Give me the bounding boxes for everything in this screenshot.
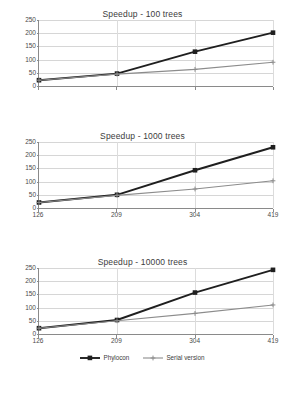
y-axis-tick-label: 50 bbox=[29, 70, 36, 77]
x-gridline bbox=[273, 20, 274, 86]
y-axis-tick-label: 250 bbox=[25, 17, 36, 24]
chart-title: Speedup - 1000 trees bbox=[0, 122, 285, 142]
legend-label: Serial version bbox=[166, 355, 204, 361]
data-point-marker bbox=[193, 187, 198, 192]
data-point-marker bbox=[271, 178, 276, 183]
x-axis-tick-label: 126 bbox=[33, 338, 44, 345]
y-axis-tick-label: 150 bbox=[25, 165, 36, 172]
chart-title: Speedup - 10000 trees bbox=[0, 248, 285, 268]
y-axis-tick-label: 50 bbox=[29, 318, 36, 325]
data-point-marker bbox=[193, 49, 198, 54]
x-axis-tick-label: 209 bbox=[111, 212, 122, 219]
x-axis-tick-mark bbox=[195, 87, 196, 90]
series-line-serial-version bbox=[39, 62, 273, 80]
plot-area: 050100150200250 bbox=[38, 142, 273, 209]
chart-title: Speedup - 100 trees bbox=[0, 0, 285, 20]
data-point-marker bbox=[271, 303, 276, 308]
figure-speedup-charts: Speedup - 100 trees 050100150200250 Spee… bbox=[0, 0, 285, 396]
x-axis: 126209304419 bbox=[38, 335, 273, 349]
x-axis: 126209304419 bbox=[38, 209, 273, 223]
x-axis-tick-mark bbox=[116, 87, 117, 90]
y-axis-tick-label: 150 bbox=[25, 43, 36, 50]
series-line-phylocon bbox=[39, 33, 273, 81]
data-point-marker bbox=[193, 290, 198, 295]
x-axis bbox=[38, 87, 273, 101]
series-line-serial-version bbox=[39, 181, 273, 203]
legend-item: Serial version bbox=[143, 354, 204, 362]
legend-plus-marker-icon bbox=[143, 354, 163, 362]
y-axis-tick-label: 150 bbox=[25, 291, 36, 298]
x-gridline bbox=[273, 268, 274, 334]
y-axis-tick-label: 200 bbox=[25, 278, 36, 285]
x-axis-tick-label: 304 bbox=[189, 212, 200, 219]
x-axis-tick-mark bbox=[273, 87, 274, 90]
data-point-marker bbox=[271, 30, 276, 35]
y-axis-tick-label: 100 bbox=[25, 178, 36, 185]
data-point-marker bbox=[271, 268, 276, 273]
x-axis-tick-mark bbox=[38, 87, 39, 90]
series-line-serial-version bbox=[39, 305, 273, 328]
x-axis-tick-label: 419 bbox=[268, 212, 279, 219]
x-axis-tick-label: 209 bbox=[111, 338, 122, 345]
plot-area: 050100150200250 bbox=[38, 268, 273, 335]
plot-area: 050100150200250 bbox=[38, 20, 273, 87]
y-axis-tick-label: 250 bbox=[25, 265, 36, 272]
data-point-marker bbox=[193, 67, 198, 72]
y-axis-tick-label: 200 bbox=[25, 152, 36, 159]
series-line-phylocon bbox=[39, 147, 273, 202]
chart-panel-1000-trees: Speedup - 1000 trees 050100150200250 126… bbox=[0, 122, 285, 248]
x-gridline bbox=[273, 142, 274, 208]
x-axis-tick-label: 304 bbox=[189, 338, 200, 345]
chart-panel-100-trees: Speedup - 100 trees 050100150200250 bbox=[0, 0, 285, 122]
y-axis-tick-label: 0 bbox=[32, 83, 36, 90]
legend-item: Phylocon bbox=[80, 354, 129, 362]
y-axis-tick-label: 250 bbox=[25, 139, 36, 146]
y-axis-tick-label: 200 bbox=[25, 30, 36, 37]
series-line-phylocon bbox=[39, 270, 273, 328]
legend-label: Phylocon bbox=[103, 355, 129, 361]
data-point-marker bbox=[193, 168, 198, 173]
data-point-marker bbox=[193, 311, 198, 316]
data-point-marker bbox=[271, 60, 276, 65]
chart-panel-10000-trees: Speedup - 10000 trees 050100150200250 12… bbox=[0, 248, 285, 374]
x-axis-tick-label: 419 bbox=[268, 338, 279, 345]
series-canvas bbox=[39, 20, 273, 86]
series-canvas bbox=[39, 268, 273, 334]
chart-legend: PhyloconSerial version bbox=[0, 351, 285, 365]
y-axis-tick-label: 100 bbox=[25, 56, 36, 63]
series-canvas bbox=[39, 142, 273, 208]
legend-square-marker-icon bbox=[80, 354, 100, 362]
y-axis-tick-label: 100 bbox=[25, 304, 36, 311]
x-axis-tick-label: 126 bbox=[33, 212, 44, 219]
y-axis-tick-label: 50 bbox=[29, 192, 36, 199]
data-point-marker bbox=[271, 145, 276, 150]
